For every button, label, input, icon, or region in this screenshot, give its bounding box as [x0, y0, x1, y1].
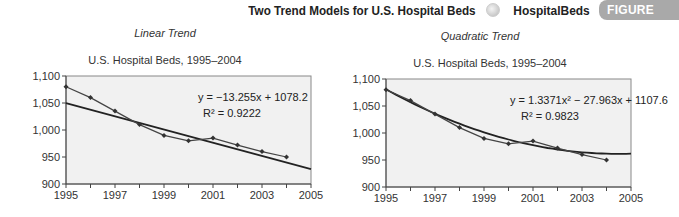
x-tick-label: 1995: [374, 192, 398, 204]
x-tick-label: 1999: [152, 189, 176, 201]
r-squared: R² = 0.9823: [521, 110, 579, 122]
trend-equation: y = −13.255x + 1078.2: [198, 91, 308, 103]
y-tick-label: 950: [42, 151, 60, 163]
y-tick-label: 1,050: [32, 97, 60, 109]
x-tick-label: 1995: [54, 189, 78, 201]
r-squared: R² = 0.9222: [203, 107, 261, 119]
y-tick-label: 1,000: [32, 124, 60, 136]
chart-subtitle: Linear Trend: [134, 27, 196, 39]
x-tick-label: 2001: [201, 189, 225, 201]
x-tick-label: 2003: [570, 192, 594, 204]
charts-canvas: Linear TrendU.S. Hospital Beds, 1995–200…: [0, 0, 679, 217]
trend-equation: y = 1.3371x² − 27.963x + 1107.6: [510, 94, 668, 106]
chart-title: U.S. Hospital Beds, 1995–2004: [88, 54, 242, 66]
x-tick-label: 2003: [250, 189, 274, 201]
y-tick-label: 950: [362, 154, 380, 166]
chart-linear: Linear TrendU.S. Hospital Beds, 1995–200…: [32, 27, 323, 201]
x-tick-label: 2005: [299, 189, 323, 201]
chart-title: U.S. Hospital Beds, 1995–2004: [413, 57, 567, 69]
x-tick-label: 1997: [423, 192, 447, 204]
x-tick-label: 1997: [103, 189, 127, 201]
chart-quadratic: Quadratic TrendU.S. Hospital Beds, 1995–…: [352, 30, 667, 204]
y-tick-label: 1,100: [32, 70, 60, 82]
x-tick-label: 2005: [619, 192, 643, 204]
x-tick-label: 2001: [521, 192, 545, 204]
chart-subtitle: Quadratic Trend: [441, 30, 521, 42]
y-tick-label: 1,100: [352, 73, 380, 85]
y-tick-label: 1,050: [352, 100, 380, 112]
y-tick-label: 1,000: [352, 127, 380, 139]
x-tick-label: 1999: [472, 192, 496, 204]
